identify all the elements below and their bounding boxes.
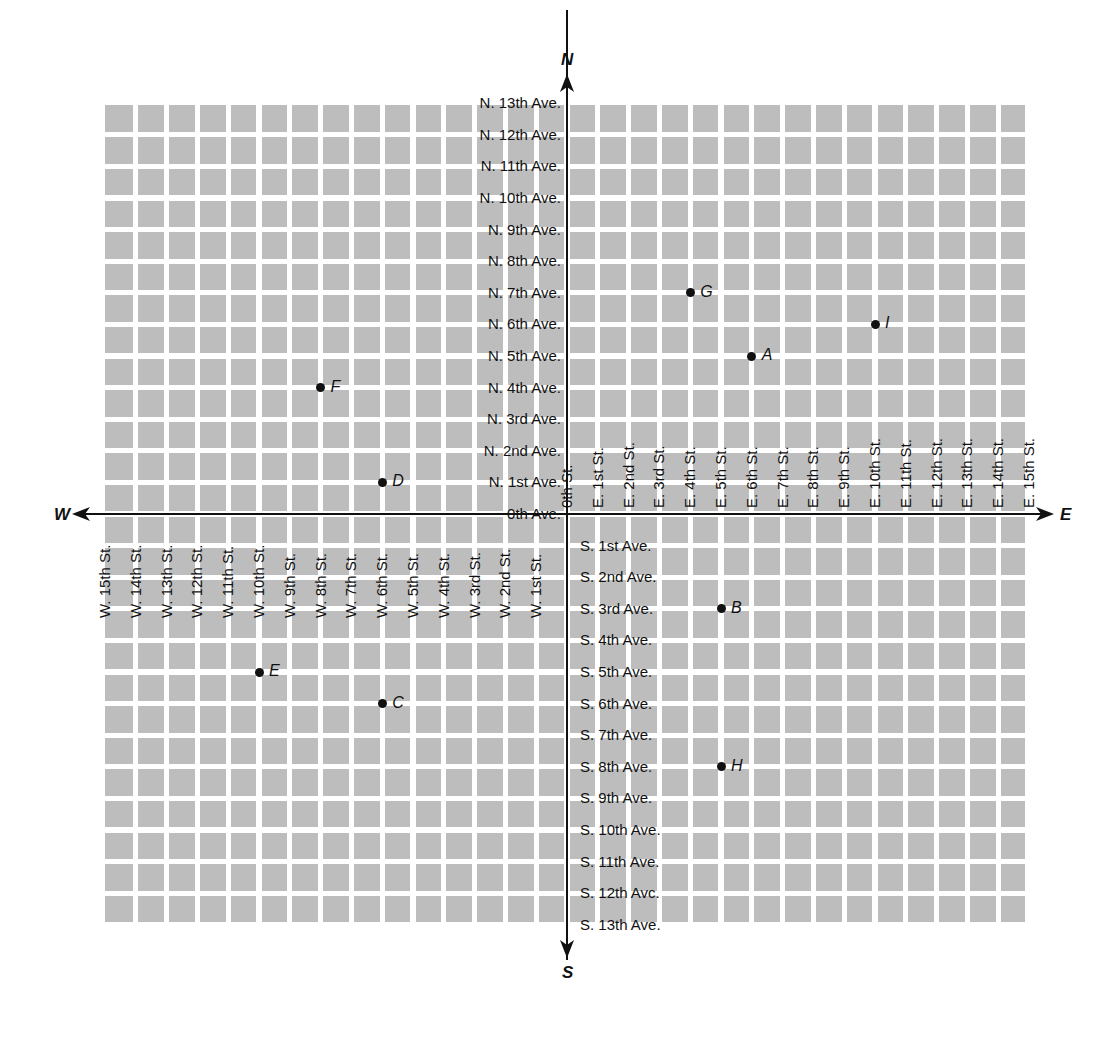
city-block [785,864,811,891]
city-block [785,105,811,132]
city-block [816,264,842,291]
direction-label-west: W [54,505,70,525]
city-block [908,169,934,196]
city-block [292,675,318,702]
city-block [416,422,442,449]
city-block [508,801,534,828]
city-block [416,105,442,132]
avenue-label-south: S. 13th Ave. [580,917,661,932]
city-block [939,548,965,575]
city-block [323,422,349,449]
city-block [908,864,934,891]
city-block [105,295,133,322]
city-block [262,706,288,733]
city-block [816,327,842,354]
city-block [292,643,318,670]
city-block [693,896,719,923]
city-block [600,169,626,196]
avenue-label-south: S. 10th Ave. [580,822,661,837]
city-block [508,864,534,891]
city-block [1001,643,1025,670]
city-block [138,864,164,891]
city-block [292,232,318,259]
city-block [847,201,873,228]
city-block [662,517,688,544]
city-block [724,169,750,196]
city-block [323,706,349,733]
city-block [785,833,811,860]
city-block [970,201,996,228]
city-block [693,643,719,670]
city-block [200,643,226,670]
city-block [169,105,195,132]
city-block [785,422,811,449]
city-block [416,453,442,480]
city-block [785,769,811,796]
city-block [477,833,503,860]
street-label-west: W. 14th St. [128,545,143,618]
city-block [570,390,596,417]
avenue-label-south: S. 2nd Ave. [580,569,656,584]
street-label-west: W. 11th St. [220,546,235,618]
city-block [1001,548,1025,575]
city-block [169,390,195,417]
city-block [970,169,996,196]
city-block [105,738,133,765]
city-block [169,485,195,512]
city-block [600,105,626,132]
city-block [262,169,288,196]
city-block [354,390,380,417]
city-block [200,675,226,702]
city-block [105,232,133,259]
city-block [169,833,195,860]
city-block [231,201,257,228]
city-block [754,295,780,322]
city-block [138,769,164,796]
city-block [785,232,811,259]
city-block [970,232,996,259]
city-block [354,896,380,923]
city-block [138,169,164,196]
city-block [970,611,996,638]
city-block [446,896,472,923]
city-block [939,864,965,891]
city-block [354,453,380,480]
city-block [138,643,164,670]
city-block [908,201,934,228]
city-block [631,264,657,291]
city-block [693,359,719,386]
city-block [477,517,503,544]
city-block [292,801,318,828]
city-block [754,422,780,449]
direction-label-south: S [562,963,573,983]
city-block [847,611,873,638]
city-block [662,548,688,575]
city-block [508,833,534,860]
city-block [693,864,719,891]
city-block [446,706,472,733]
city-block [262,769,288,796]
city-block [970,359,996,386]
city-block [878,359,904,386]
city-block [105,706,133,733]
city-block [970,864,996,891]
city-block [354,738,380,765]
city-block [816,105,842,132]
city-block [323,105,349,132]
city-block [908,675,934,702]
city-block [754,706,780,733]
city-block [385,169,411,196]
city-block [138,706,164,733]
city-block [231,327,257,354]
arrow-west-icon [72,506,90,522]
city-block [816,390,842,417]
city-block [878,232,904,259]
city-block [754,390,780,417]
city-block [262,232,288,259]
city-block [878,548,904,575]
street-label-east: E. 6th St. [744,446,759,508]
city-block [939,643,965,670]
city-block [231,390,257,417]
street-label-east: E. 9th St. [836,446,851,508]
city-block [662,738,688,765]
